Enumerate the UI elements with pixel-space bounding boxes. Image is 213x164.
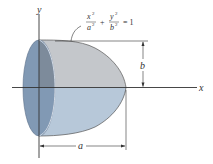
eq-term2-num-exp: 2 — [115, 11, 118, 16]
eq-term2-den-exp: 2 — [115, 22, 118, 27]
b-arrow-top — [142, 42, 145, 47]
equation-leader — [71, 26, 81, 41]
x-axis-label: x — [198, 82, 204, 93]
y-axis-label: y — [36, 4, 42, 15]
eq-term2-den: b — [110, 23, 114, 32]
a-arrow-right — [121, 145, 126, 148]
a-arrow-left — [40, 145, 45, 148]
eq-term1-den-exp: 2 — [92, 22, 95, 27]
eq-equals: = 1 — [123, 18, 134, 27]
b-arrow-bottom — [142, 83, 145, 88]
eq-plus: + — [100, 18, 105, 27]
eq-term1-num-exp: 2 — [92, 11, 95, 16]
a-dimension-label: a — [78, 140, 83, 151]
eq-term2-num: y — [109, 12, 114, 21]
eq-term1-num: x — [86, 12, 91, 21]
b-dimension-label: b — [140, 60, 145, 71]
diagram-canvas: x y b a x 2 a 2 + y 2 b 2 = 1 — [0, 0, 213, 164]
eq-term1-den: a — [87, 23, 91, 32]
equation: x 2 a 2 + y 2 b 2 = 1 — [86, 11, 134, 32]
